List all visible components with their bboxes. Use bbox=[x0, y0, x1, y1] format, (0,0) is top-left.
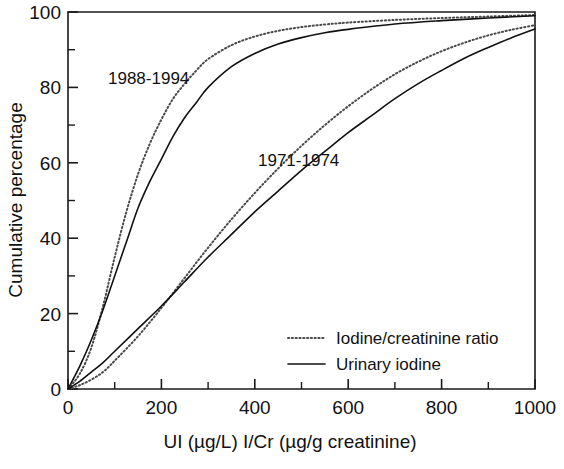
y-axis-title: Cumulative percentage bbox=[5, 102, 26, 297]
x-tick-label-800: 800 bbox=[426, 397, 458, 418]
x-tick-label-1000: 1000 bbox=[514, 397, 556, 418]
legend-label-urinary-iodine: Urinary iodine bbox=[336, 355, 441, 374]
y-tick-label-20: 20 bbox=[40, 304, 61, 325]
x-axis-title: UI (µg/L) I/Cr (µg/g creatinine) bbox=[163, 431, 416, 452]
cumulative-percentage-chart: 0 20 40 60 80 100 0 200 400 600 bbox=[0, 0, 564, 469]
annotation-1971-1974: 1971-1974 bbox=[258, 151, 339, 170]
y-tick-label-40: 40 bbox=[40, 228, 61, 249]
x-tick-label-600: 600 bbox=[332, 397, 364, 418]
y-tick-label-100: 100 bbox=[29, 2, 61, 23]
y-tick-label-80: 80 bbox=[40, 77, 61, 98]
y-tick-label-60: 60 bbox=[40, 153, 61, 174]
x-tick-label-400: 400 bbox=[239, 397, 271, 418]
legend-label-iodine-creatinine-ratio: Iodine/creatinine ratio bbox=[336, 329, 499, 348]
x-tick-label-200: 200 bbox=[146, 397, 178, 418]
chart-figure: 0 20 40 60 80 100 0 200 400 600 bbox=[0, 0, 564, 469]
x-tick-label-0: 0 bbox=[63, 397, 74, 418]
chart-background bbox=[0, 0, 564, 469]
annotation-1988-1994: 1988-1994 bbox=[108, 69, 189, 88]
y-tick-label-0: 0 bbox=[50, 379, 61, 400]
